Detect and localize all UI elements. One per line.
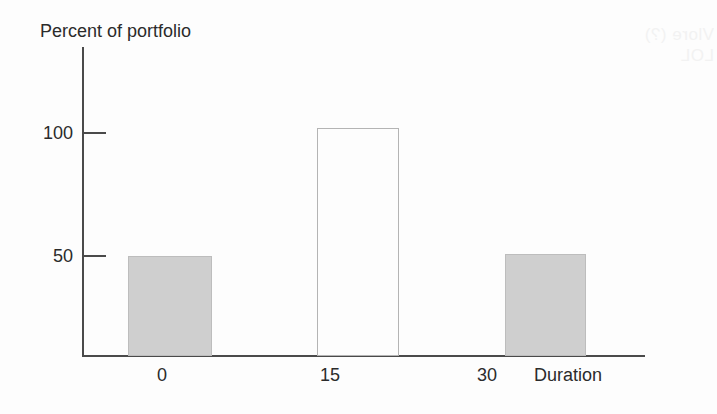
bar-category-0: [128, 256, 212, 356]
x-tick-label-30: 30: [477, 365, 497, 386]
bar-category-15: [317, 128, 399, 356]
x-tick-label-15: 15: [320, 365, 340, 386]
x-tick-label-0: 0: [157, 365, 167, 386]
x-axis-title: Duration: [534, 365, 602, 386]
bar-category-30: [505, 254, 586, 356]
plot-area: [0, 0, 717, 356]
bar-chart-figure: Vlore (?) LOL Percent of portfolio 100 5…: [0, 0, 717, 414]
